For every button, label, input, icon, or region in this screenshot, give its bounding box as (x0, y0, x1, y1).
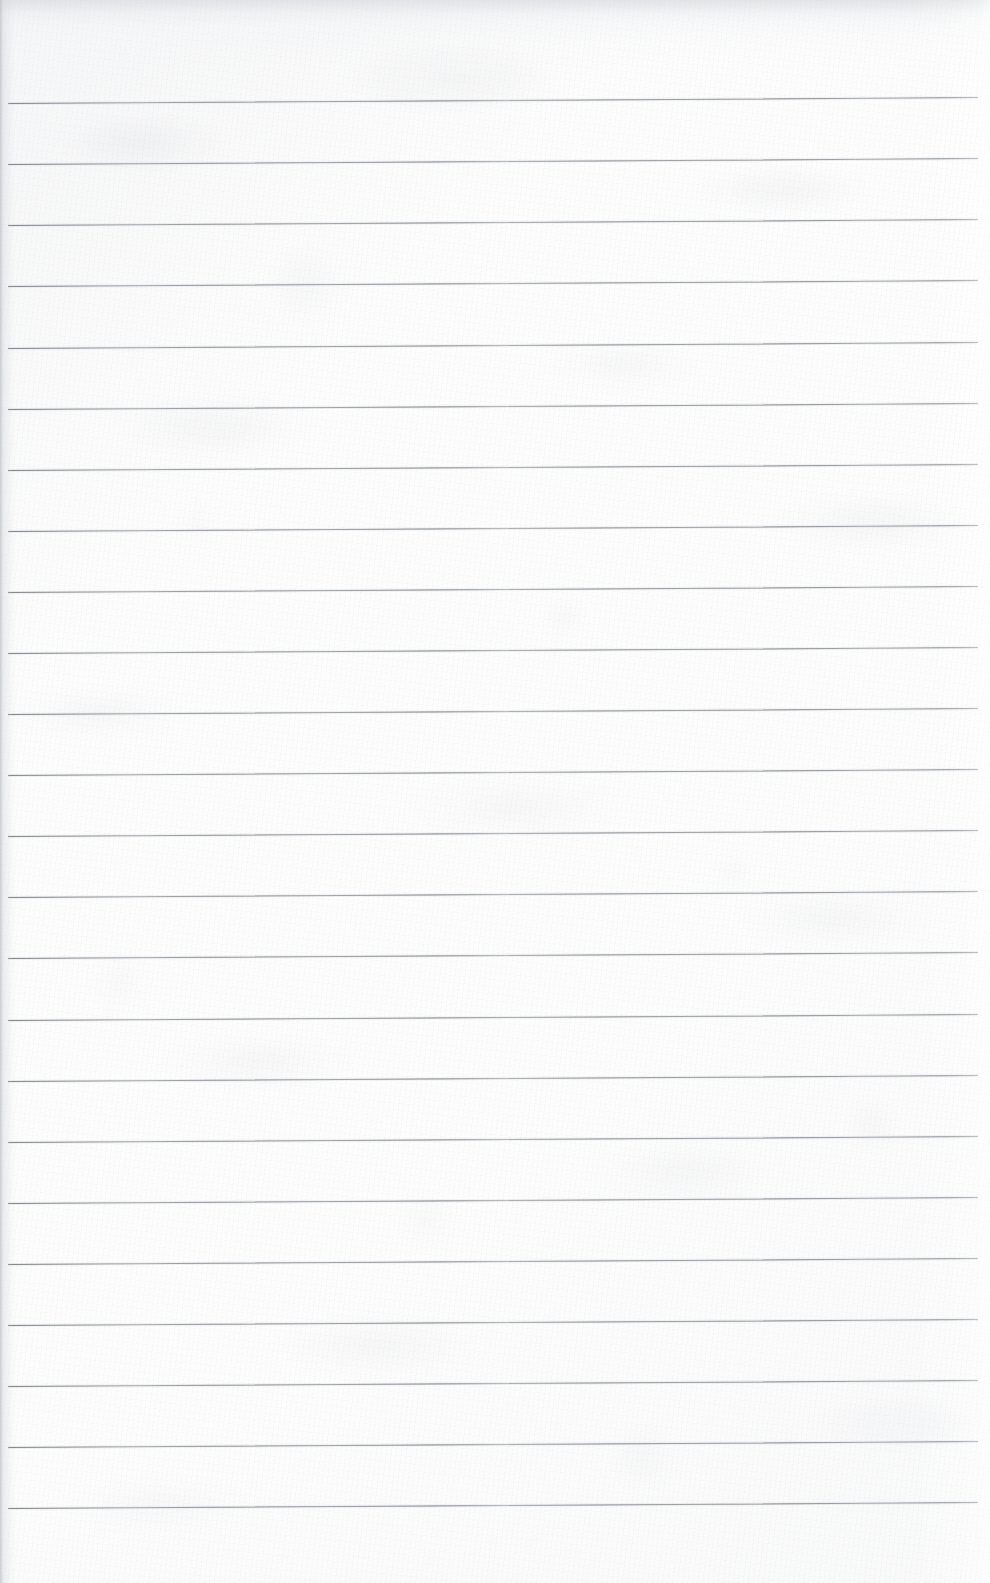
rule-line (8, 1441, 978, 1448)
rule-line (8, 1014, 978, 1021)
rule-line (8, 158, 978, 165)
paper-grain-layer-b (0, 0, 990, 1583)
ruled-lines-layer (0, 0, 990, 1583)
rule-line (8, 97, 978, 104)
rule-line (8, 708, 978, 715)
rule-line (8, 525, 978, 532)
rule-line (8, 1319, 978, 1326)
rule-line (8, 1502, 978, 1509)
rule-line (8, 1197, 978, 1204)
rule-line (8, 464, 978, 471)
rule-line (8, 403, 978, 410)
rule-line (8, 1258, 978, 1265)
rule-line (8, 1380, 978, 1387)
scan-edge-vignette (0, 0, 990, 1583)
rule-line (8, 769, 978, 776)
rule-line (8, 830, 978, 837)
rule-line (8, 952, 978, 959)
rule-line (8, 1136, 978, 1143)
paper-grain-layer-a (0, 0, 990, 1583)
rule-line (8, 219, 978, 226)
rule-line (8, 647, 978, 654)
paper-grain-layer-c (0, 0, 990, 1583)
rule-line (8, 586, 978, 593)
scanned-page (0, 0, 990, 1583)
rule-line (8, 280, 978, 287)
rule-line (8, 1075, 978, 1082)
rule-line (8, 342, 978, 349)
rule-line (8, 891, 978, 898)
